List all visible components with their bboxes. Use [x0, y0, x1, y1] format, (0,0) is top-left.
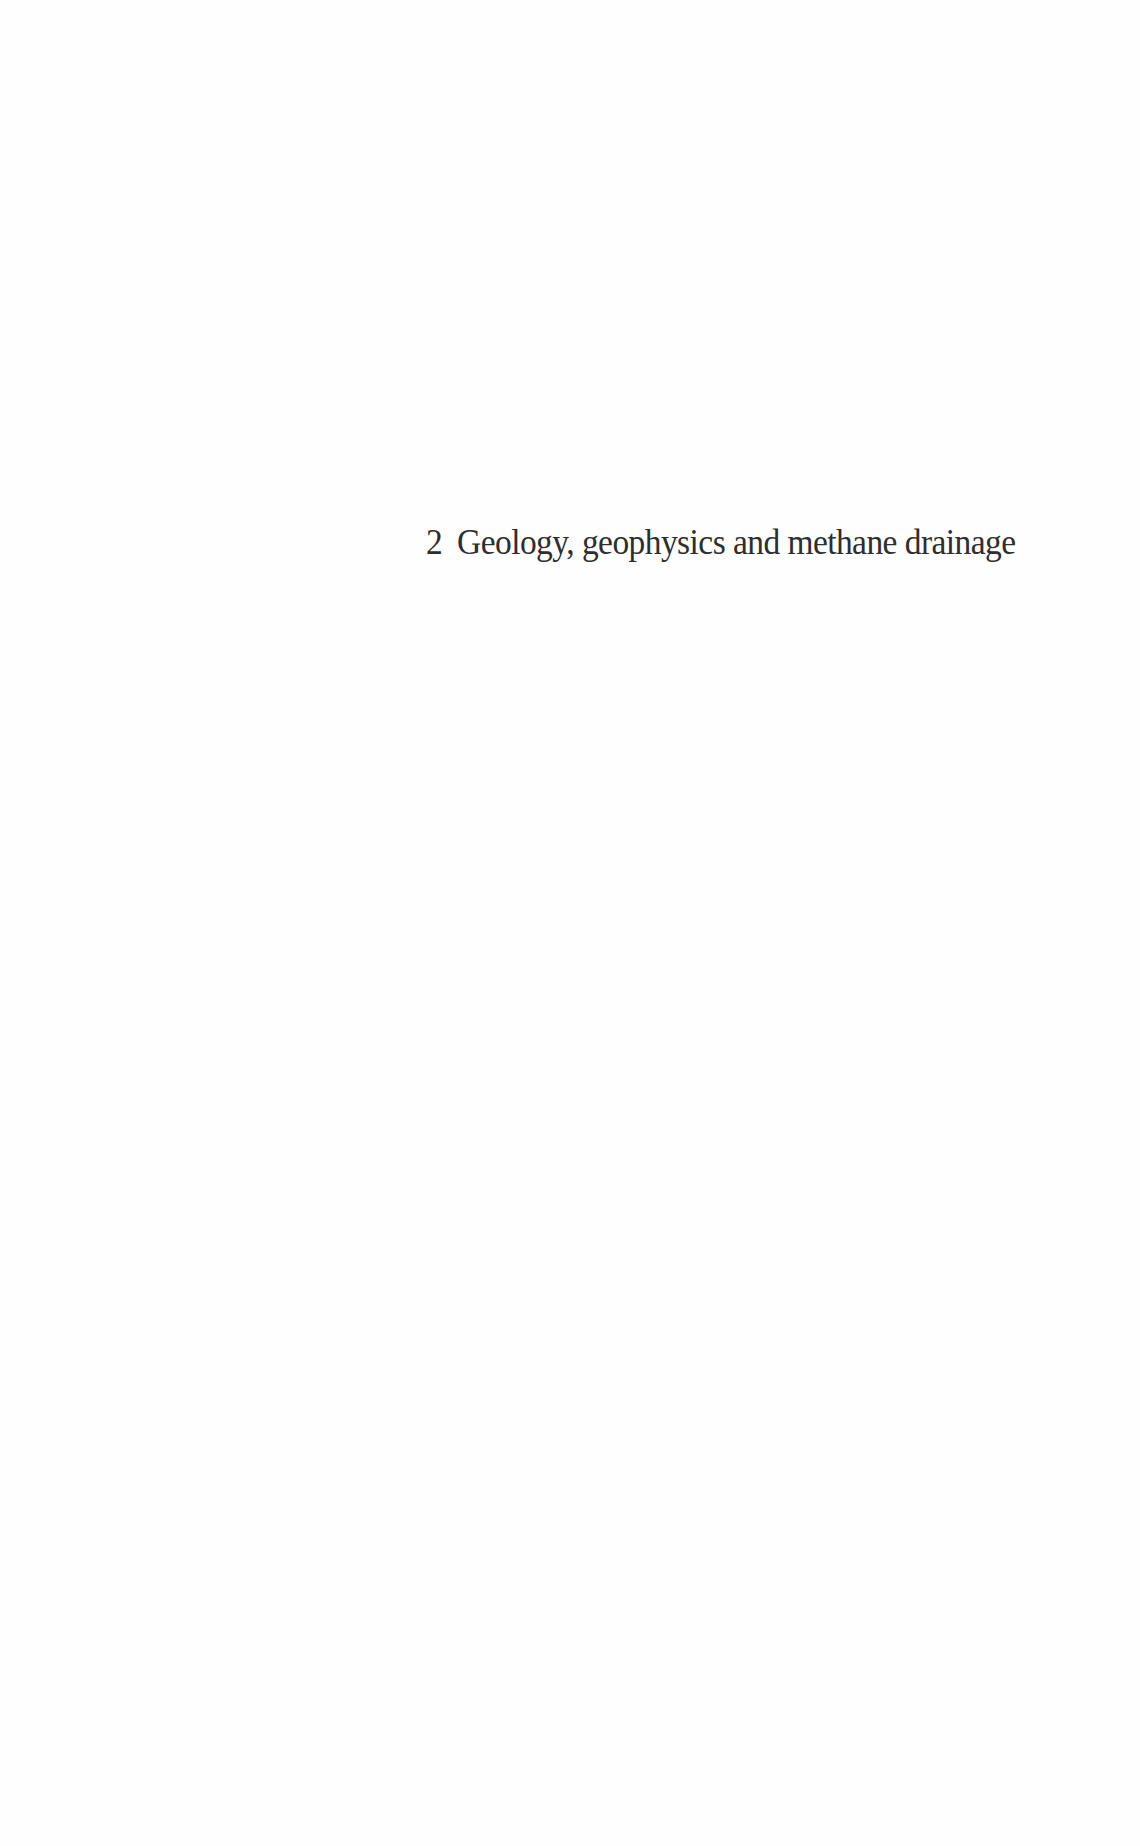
chapter-heading: 2Geology, geophysics and methane drainag… — [426, 520, 1016, 564]
book-page: 2Geology, geophysics and methane drainag… — [0, 0, 1140, 1846]
chapter-title: Geology, geophysics and methane drainage — [457, 522, 1015, 562]
chapter-number: 2 — [426, 522, 442, 562]
